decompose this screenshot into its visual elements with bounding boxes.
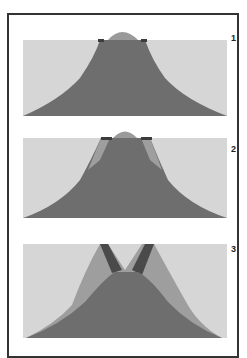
panel-1: 1 bbox=[0, 0, 247, 120]
panel-2: 2 bbox=[0, 120, 247, 230]
volcano-stage-2-illustration bbox=[0, 120, 247, 230]
summit-dome bbox=[113, 132, 137, 139]
volcano-stage-1-illustration bbox=[0, 0, 247, 120]
crater-rim-right bbox=[141, 137, 152, 140]
panel-3: 3 bbox=[0, 230, 247, 349]
crater-rim-left bbox=[98, 39, 104, 42]
panel-label-1: 1 bbox=[231, 33, 236, 43]
panel-label-3: 3 bbox=[231, 244, 236, 254]
summit-dome bbox=[108, 32, 138, 40]
crater-rim-left bbox=[101, 137, 112, 140]
panel-label-2: 2 bbox=[231, 144, 236, 154]
volcano-stage-3-illustration bbox=[0, 230, 247, 349]
crater-rim-right bbox=[141, 39, 147, 42]
